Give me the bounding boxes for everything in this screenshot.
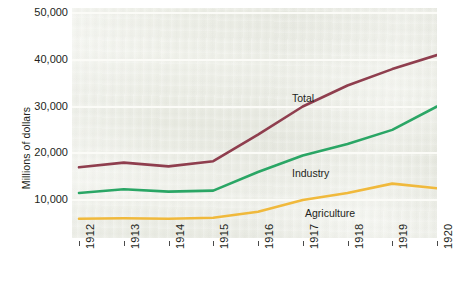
x-tick-mark-1919	[392, 241, 393, 246]
y-tick-label-30000: 30,000	[8, 101, 68, 112]
x-tick-mark-1914	[169, 241, 170, 246]
x-tick-mark-1920	[437, 241, 438, 246]
y-tick-label-20000: 20,000	[8, 147, 68, 158]
x-tick-mark-1912	[79, 241, 80, 246]
x-tick-label-1920: 1920	[442, 224, 454, 249]
x-tick-mark-1918	[348, 241, 349, 246]
x-tick-label-1915: 1915	[218, 224, 230, 249]
x-tick-mark-1917	[303, 241, 304, 246]
series-label-total: Total	[292, 92, 314, 104]
x-tick-label-1916: 1916	[263, 224, 275, 249]
x-tick-label-1914: 1914	[174, 224, 186, 249]
x-tick-mark-1915	[213, 241, 214, 246]
x-axis: 191219131914191519161917191819191920	[72, 238, 437, 298]
series-label-industry: Industry	[292, 167, 329, 179]
x-tick-mark-1913	[124, 241, 125, 246]
x-tick-label-1917: 1917	[308, 224, 320, 249]
x-tick-label-1912: 1912	[84, 224, 96, 249]
y-tick-label-10000: 10,000	[8, 194, 68, 205]
y-tick-label-40000: 40,000	[8, 54, 68, 65]
series-lines	[72, 8, 437, 238]
series-line-industry	[79, 107, 437, 193]
x-tick-label-1919: 1919	[397, 224, 409, 249]
y-axis-tick-labels: 10,00020,00030,00040,00050,000	[0, 0, 68, 298]
x-tick-label-1918: 1918	[353, 224, 365, 249]
x-tick-label-1913: 1913	[129, 224, 141, 249]
series-label-agriculture: Agriculture	[305, 207, 355, 219]
x-tick-mark-1916	[258, 241, 259, 246]
plot-area: TotalIndustryAgriculture	[72, 8, 437, 238]
series-line-total	[79, 55, 437, 167]
y-tick-label-50000: 50,000	[8, 7, 68, 18]
